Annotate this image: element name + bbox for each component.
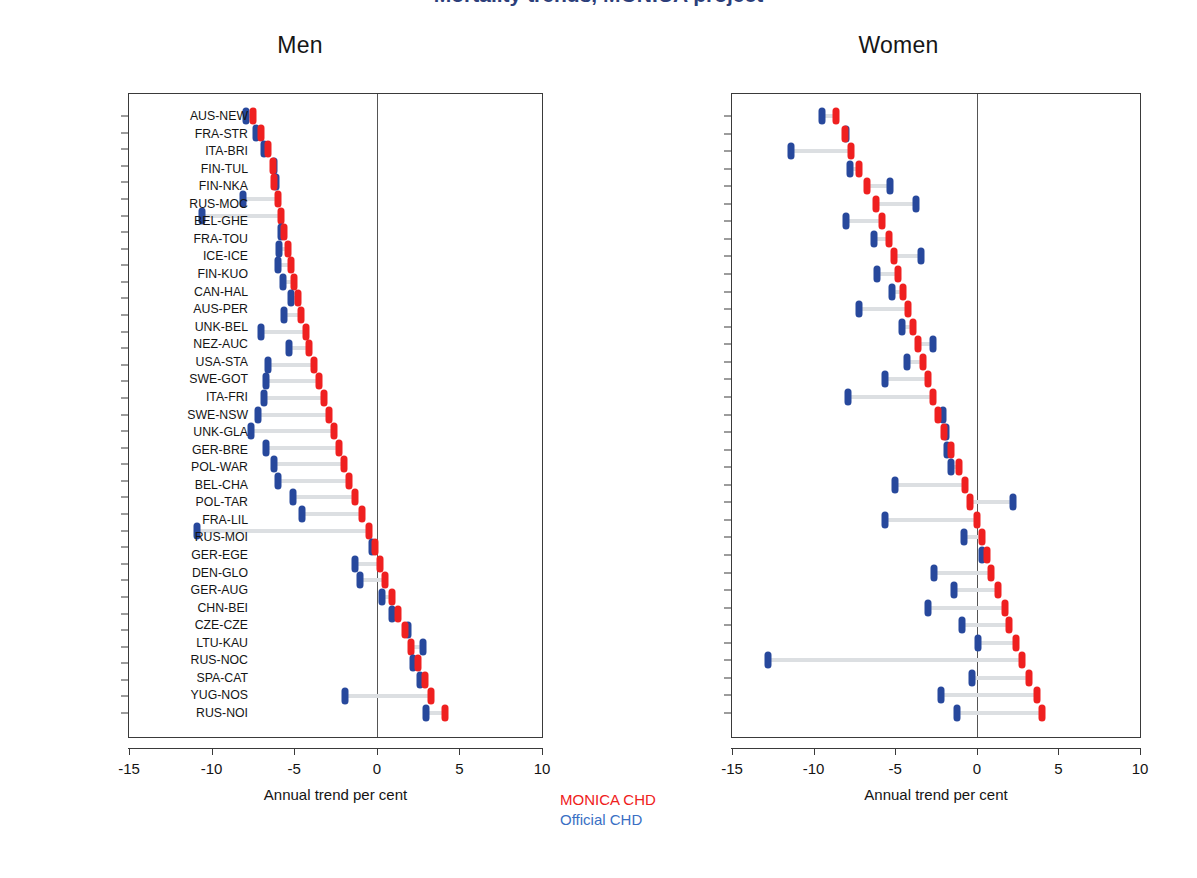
- data-point-official-chd: [258, 323, 265, 340]
- y-axis-tick: [121, 315, 128, 316]
- panel-women: Women AUS-NEWFRA-STRITA-BRIFIN-TULFIN-NK…: [600, 0, 1197, 878]
- y-axis-tick: [121, 563, 128, 564]
- y-axis-tick: [121, 497, 128, 498]
- connector-line: [972, 676, 1029, 680]
- y-axis-tick: [724, 309, 731, 310]
- y-axis-tick: [121, 248, 128, 249]
- y-axis-tick: [724, 133, 731, 134]
- connector-line: [895, 483, 965, 487]
- data-point-official-chd: [423, 705, 430, 722]
- y-axis-label-chn-bei: CHN-BEI: [197, 601, 248, 613]
- y-axis-tick: [724, 344, 731, 345]
- data-point-monica-chd: [1012, 634, 1019, 651]
- data-point-official-chd: [352, 555, 359, 572]
- y-axis-tick: [121, 447, 128, 448]
- y-axis-tick: [724, 221, 731, 222]
- y-axis-label-aus-per: AUS-PER: [193, 303, 248, 315]
- connector-line: [266, 446, 339, 450]
- data-point-monica-chd: [258, 124, 265, 141]
- data-point-monica-chd: [1039, 705, 1046, 722]
- connector-line: [278, 479, 349, 483]
- x-axis-tick-label: -15: [118, 760, 140, 777]
- y-axis-label-pol-tar: POL-TAR: [196, 496, 248, 508]
- data-point-monica-chd: [274, 190, 281, 207]
- data-point-monica-chd: [941, 424, 948, 441]
- data-point-official-chd: [764, 652, 771, 669]
- data-point-monica-chd: [335, 439, 342, 456]
- x-axis-tick: [895, 748, 896, 755]
- y-axis-tick: [121, 613, 128, 614]
- data-point-official-chd: [924, 599, 931, 616]
- y-axis-tick: [724, 484, 731, 485]
- data-point-official-chd: [281, 307, 288, 324]
- legend-item-monica-chd: MONICA CHD: [560, 790, 656, 810]
- y-axis-tick: [121, 198, 128, 199]
- y-axis-label-ice-ice: ICE-ICE: [203, 250, 248, 262]
- y-axis-tick: [121, 281, 128, 282]
- data-point-monica-chd: [872, 195, 879, 212]
- connector-line: [978, 641, 1016, 645]
- data-point-official-chd: [263, 373, 270, 390]
- data-point-monica-chd: [1006, 617, 1013, 634]
- x-axis-tick: [977, 748, 978, 755]
- y-axis-category-labels: SWE-NSWAUS-NEWFIN-NKASWI-VAFICE-ICECAN-H…: [0, 0, 124, 878]
- data-point-official-chd: [378, 588, 385, 605]
- connector-line: [293, 495, 356, 499]
- data-point-monica-chd: [358, 506, 365, 523]
- data-point-official-chd: [898, 318, 905, 335]
- data-point-monica-chd: [388, 588, 395, 605]
- y-axis-tick: [121, 182, 128, 183]
- connector-line: [251, 429, 334, 433]
- data-point-monica-chd: [919, 353, 926, 370]
- y-axis-label-swe-got: SWE-GOT: [189, 373, 248, 385]
- y-axis-tick: [121, 464, 128, 465]
- data-point-official-chd: [947, 459, 954, 476]
- data-point-monica-chd: [415, 655, 422, 672]
- x-axis-tick: [732, 748, 733, 755]
- data-point-official-chd: [882, 371, 889, 388]
- x-axis-tick-label: 10: [1132, 760, 1149, 777]
- data-point-monica-chd: [833, 108, 840, 125]
- x-axis-tick: [1058, 748, 1059, 755]
- x-axis-tick: [1140, 748, 1141, 755]
- x-axis-title: Annual trend per cent: [864, 786, 1007, 803]
- data-point-monica-chd: [284, 240, 291, 257]
- data-point-monica-chd: [441, 705, 448, 722]
- data-point-official-chd: [892, 476, 899, 493]
- data-point-monica-chd: [291, 273, 298, 290]
- y-axis-tick: [121, 265, 128, 266]
- connector-line: [885, 377, 927, 381]
- y-axis-tick: [121, 514, 128, 515]
- y-axis-tick: [724, 432, 731, 433]
- y-axis-tick: [121, 414, 128, 415]
- y-axis-tick: [724, 502, 731, 503]
- data-point-official-chd: [870, 230, 877, 247]
- data-point-monica-chd: [377, 555, 384, 572]
- data-point-monica-chd: [929, 388, 936, 405]
- data-point-official-chd: [882, 511, 889, 528]
- data-point-official-chd: [274, 257, 281, 274]
- data-point-monica-chd: [401, 622, 408, 639]
- x-axis-tick-label: -15: [721, 760, 743, 777]
- connector-line: [954, 588, 998, 592]
- x-axis-tick: [212, 748, 213, 755]
- data-point-official-chd: [289, 489, 296, 506]
- x-axis-tick-label: -10: [201, 760, 223, 777]
- y-axis-tick: [724, 660, 731, 661]
- y-axis-tick: [724, 203, 731, 204]
- y-axis-tick: [121, 364, 128, 365]
- data-point-monica-chd: [352, 489, 359, 506]
- y-axis-tick: [121, 596, 128, 597]
- data-point-monica-chd: [910, 318, 917, 335]
- data-point-monica-chd: [320, 389, 327, 406]
- y-axis-label-ltu-kau: LTU-KAU: [196, 637, 248, 649]
- data-point-official-chd: [968, 669, 975, 686]
- data-point-official-chd: [276, 240, 283, 257]
- data-point-monica-chd: [1026, 669, 1033, 686]
- data-point-official-chd: [299, 506, 306, 523]
- data-point-monica-chd: [306, 340, 313, 357]
- data-point-monica-chd: [297, 307, 304, 324]
- y-axis-label-rus-noi: RUS-NOI: [196, 707, 248, 719]
- y-axis-label-bel-cha: BEL-CHA: [195, 479, 248, 491]
- y-axis-tick: [121, 630, 128, 631]
